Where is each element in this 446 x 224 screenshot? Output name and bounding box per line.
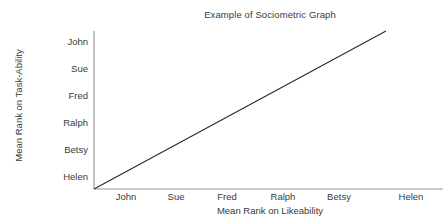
x-tick-label: Ralph [271,191,296,202]
x-tick-label: Fred [217,191,237,202]
x-tick-label: Sue [168,191,185,202]
x-tick-label: Helen [399,191,424,202]
x-tick-label: Betsy [327,191,351,202]
x-tick-label: John [116,191,137,202]
sociometric-chart: Example of Sociometric Graph John Sue Fr… [0,0,446,224]
x-axis-title: Mean Rank on Likeability [170,205,370,216]
x-tick-label-group: John Sue Fred Ralph Betsy Helen [0,0,446,224]
y-axis-title: Mean Rank on Task-Ability [13,16,24,196]
